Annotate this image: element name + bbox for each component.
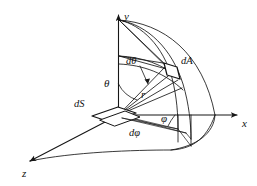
x-axis-label: x <box>242 118 247 129</box>
phi-angle-arc <box>168 115 175 126</box>
dtheta-arrow <box>140 66 150 84</box>
azimuth-differential-label: dφ <box>129 128 140 139</box>
spherical-solid-angle-diagram <box>0 0 257 186</box>
dA-patch <box>164 63 180 79</box>
meridian-lower-segments <box>178 115 191 146</box>
area-element-label: dA <box>181 56 193 67</box>
surface-element-label: dS <box>74 99 85 110</box>
axis-lines <box>30 15 237 161</box>
polar-differential-label: dθ <box>126 56 136 67</box>
radius-label: r <box>141 89 145 100</box>
theta-angle-arc <box>119 84 138 100</box>
y-axis-label: y <box>124 11 129 22</box>
projection-line-4 <box>186 133 191 139</box>
z-axis-label: z <box>22 168 26 179</box>
polar-angle-label: θ <box>104 78 109 89</box>
dS-patch <box>92 107 140 126</box>
azimuth-angle-label: φ <box>161 113 167 124</box>
